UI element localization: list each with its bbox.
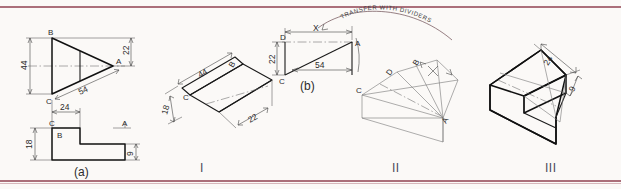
label-point-c-front: C <box>49 119 55 128</box>
label-point-a-top: A <box>116 57 122 66</box>
dim-44-step1: 44 <box>196 66 209 80</box>
dim-44-top: 44 <box>19 60 29 70</box>
dim-24-front: 24 <box>60 102 70 112</box>
label-point-b-top: B <box>48 28 53 37</box>
panel-a-front-view: C B A 24 18 9 (a) <box>24 100 140 179</box>
label-point-b-front: B <box>57 131 62 140</box>
label-point-d-step2: D <box>384 67 395 77</box>
dim-54-top: 54 <box>77 84 90 97</box>
label-point-c-b: C <box>279 77 285 86</box>
drawing-page: B C A 44 22 54 <box>0 0 621 189</box>
label-point-a-front: A <box>122 119 128 128</box>
label-point-b-step2: B <box>411 58 421 67</box>
label-point-d-b: D <box>280 33 286 42</box>
transfer-note-text: TRANSFER WITH DIVIDERS <box>339 4 432 23</box>
dim-18-step1: 18 <box>159 104 171 116</box>
label-point-a-step2: A <box>440 115 451 125</box>
dim-9-front: 9 <box>125 151 135 156</box>
label-point-c-top: C <box>46 97 52 106</box>
label-point-c-step2: C <box>356 86 362 95</box>
dim-22-b: 22 <box>267 54 277 64</box>
dim-22-top: 22 <box>121 45 131 55</box>
dim-18-front: 18 <box>24 139 34 149</box>
step-1-construction: C B 44 18 22 I <box>159 53 272 175</box>
dim-9-step3: 9 <box>566 85 577 93</box>
panel-b-true-length: D A C X 22 54 (b) TRANSFER WITH DIVIDERS <box>267 4 462 93</box>
panel-a-top-view: B C A 44 22 54 <box>19 28 135 106</box>
caption-b: (b) <box>300 79 315 93</box>
label-point-c-step1: C <box>183 93 189 102</box>
transfer-note: TRANSFER WITH DIVIDERS <box>339 4 432 23</box>
caption-a: (a) <box>74 165 89 179</box>
drawing-canvas: B C A 44 22 54 <box>0 0 621 189</box>
step-2-construction: C D B A II <box>356 58 458 175</box>
step-3-solid: 24 9 III <box>490 44 582 175</box>
label-point-a-b: A <box>355 39 361 48</box>
step-numeral-3: III <box>545 161 557 175</box>
dim-22-step1: 22 <box>246 111 259 125</box>
step-numeral-2: II <box>392 161 400 175</box>
dim-24-step3: 24 <box>541 54 555 68</box>
dim-54-b: 54 <box>315 60 325 70</box>
step-numeral-1: I <box>200 161 204 175</box>
